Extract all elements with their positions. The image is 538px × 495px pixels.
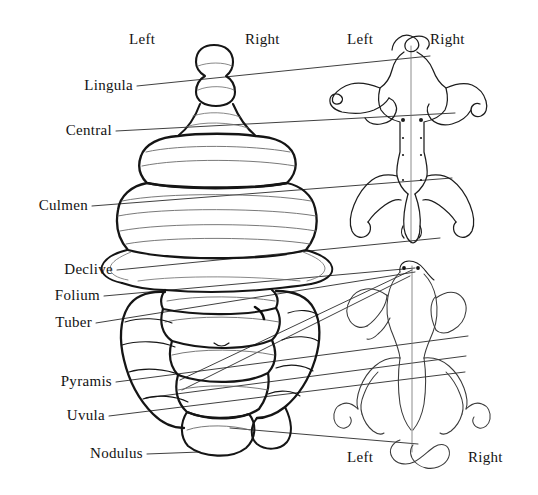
lower-homunculus-head [400, 261, 434, 280]
upper-homunculus-pelvis [404, 194, 421, 243]
lobule-label-pyramis: Pyramis [0, 374, 112, 389]
lower-homunculus-left-foot [334, 403, 358, 428]
homunculus-dot [420, 179, 422, 181]
homunculus-dot [419, 118, 423, 122]
lobule-label-declive: Declive [0, 262, 113, 277]
lower-homunculus-torso-right [424, 274, 437, 358]
nodulus-fissure [187, 426, 250, 430]
lower-homunculus-pelvis [399, 358, 412, 430]
lower-homunculus-tail [390, 440, 449, 468]
cerebellum-homunculus-figure: Left Right Left Right Left Right Lingula… [0, 0, 538, 495]
lower-homunculus-left-thigh [361, 372, 378, 414]
orientation-header-upper-homunculus-right: Right [430, 32, 465, 47]
right-lobe-fissure-1 [288, 311, 318, 315]
homunculus-dot [416, 266, 420, 270]
orientation-header-lower-homunculus-left: Left [347, 450, 373, 465]
upper-homunculus-torso-right [415, 52, 447, 194]
upper-homunculus-right-arm [446, 84, 487, 117]
lower-homunculus-right-thigh [446, 372, 463, 414]
cerebellum-nodulus-lobule [182, 412, 254, 456]
culmen-fissure-2 [118, 210, 316, 216]
culmen-fissure-1 [122, 195, 311, 201]
homunculus-dot [402, 266, 406, 270]
homunculus-dot [402, 179, 404, 181]
leader-line-central [116, 113, 455, 131]
hemisphere-inner-left [110, 252, 131, 280]
lobule-label-nodulus: Nodulus [0, 446, 143, 461]
lower-homunculus-left-hand [367, 318, 390, 339]
upper-homunculus-dots [401, 118, 423, 181]
orientation-header-upper-homunculus-left: Left [347, 32, 373, 47]
cerebellum-uvula-lobule [176, 373, 268, 418]
cerebellum-right-tonsil [252, 407, 291, 449]
lobule-label-lingula: Lingula [0, 78, 133, 93]
tuber-fissure-1 [165, 317, 279, 322]
lower-homunculus-left-forearm [367, 295, 387, 326]
homunculus-dot [420, 154, 422, 156]
homunculus-dot [420, 137, 422, 139]
orientation-header-lower-homunculus-right: Right [468, 450, 503, 465]
homunculus-dot [402, 154, 404, 156]
culmen-fissure-4 [126, 238, 310, 244]
lower-homunculus [334, 261, 490, 468]
pyramis-fissure-1 [172, 350, 274, 355]
leader-line-nodulus-b [230, 428, 418, 444]
central-fissure-1 [146, 146, 290, 152]
lower-homunculus-right-arm [436, 292, 466, 333]
cerebellum-drawing [102, 45, 333, 456]
lingula-fissure-2 [198, 87, 234, 90]
homunculus-dot [401, 118, 405, 122]
lobule-label-central: Central [0, 123, 112, 138]
leader-line-nodulus [147, 452, 200, 454]
vermis-neck-fissure-1 [193, 113, 240, 117]
lobule-label-uvula: Uvula [0, 408, 105, 423]
lingula-fissure-1 [198, 63, 232, 66]
orientation-header-cerebellum-right: Right [245, 32, 280, 47]
leader-line-pyramis [116, 336, 468, 382]
lobule-label-folium: Folium [0, 288, 100, 303]
lower-homunculus-right-foot-2 [440, 414, 462, 434]
upper-homunculus-left-foot [368, 200, 401, 222]
folium-fissure [167, 297, 275, 301]
left-lobe-fissure-3 [129, 369, 180, 375]
upper-homunculus-right-foot [423, 200, 456, 222]
culmen-fissure-3 [120, 225, 316, 231]
lower-homunculus-right-foot [466, 403, 490, 428]
upper-homunculus-right-leg [427, 175, 474, 237]
lobule-label-culmen: Culmen [0, 198, 88, 213]
right-lobe-fissure-3 [276, 365, 313, 371]
lower-homunculus-right-leg [424, 358, 467, 409]
homunculus-dot [402, 137, 404, 139]
upper-homunculus [330, 35, 487, 243]
lower-homunculus-left-arm [347, 289, 388, 328]
left-lobe-fissure-2 [122, 342, 175, 347]
lower-homunculus-left-foot-2 [362, 414, 384, 434]
upper-homunculus-head-squiggle [392, 35, 429, 51]
pyramis-notch [214, 343, 229, 346]
lobule-label-tuber: Tuber [0, 315, 92, 330]
cerebellum-lingula-lobule [196, 45, 235, 106]
lower-homunculus-pelvis-right [413, 358, 426, 430]
central-fissure-2 [142, 160, 295, 166]
left-lobe-fissure-4 [143, 396, 188, 402]
cerebellum-vermis-neck [178, 104, 256, 136]
orientation-header-cerebellum-left: Left [129, 32, 155, 47]
